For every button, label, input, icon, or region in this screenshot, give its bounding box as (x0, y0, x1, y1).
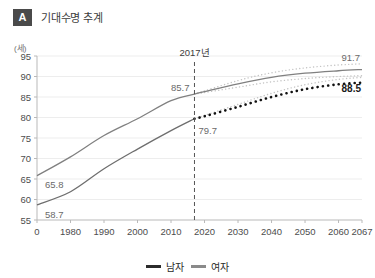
annotation-male-2067: 88.5 (342, 83, 362, 94)
section-badge: A (13, 9, 32, 26)
legend-label-male: 남자 (166, 259, 184, 274)
x-tick-label: 2000 (127, 226, 148, 237)
x-axis-ticks: 0198019902000201020202030204020502060206… (34, 220, 372, 237)
y-tick-label: 55 (20, 215, 31, 226)
y-tick-label: 65 (20, 174, 31, 185)
confidence-band-line (194, 64, 362, 94)
chart-area: 556065707580859095 019801990200020102020… (0, 34, 375, 256)
chart-header: A 기대수명 추계 (0, 0, 375, 34)
annotation-projection-year: 2017년 (179, 47, 209, 58)
legend-swatch-female-icon (191, 265, 206, 268)
annotation-female-2017: 85.7 (171, 82, 190, 93)
x-tick-label: 2067 (351, 226, 372, 237)
y-tick-label: 85 (20, 92, 31, 103)
x-tick-label: 2020 (194, 226, 215, 237)
x-tick-label: 1980 (60, 226, 81, 237)
x-tick-label: 2010 (160, 226, 181, 237)
annotation-male-start: 58.7 (45, 209, 64, 220)
annotation-female-2067: 91.7 (342, 52, 361, 63)
y-tick-label: 80 (20, 112, 31, 123)
series-line-male-historical (37, 119, 194, 205)
series-line-female (37, 70, 362, 176)
x-tick-label: 1990 (93, 226, 114, 237)
page-title: 기대수명 추계 (41, 9, 103, 25)
y-tick-label: 70 (20, 153, 31, 164)
y-tick-label: 95 (20, 51, 31, 62)
x-tick-label: 2050 (294, 226, 315, 237)
legend-swatch-male-icon (146, 265, 161, 268)
confidence-bands (194, 64, 362, 119)
x-tick-label: 2030 (227, 226, 248, 237)
legend-label-female: 여자 (211, 259, 229, 274)
legend-item-male: 남자 (146, 259, 184, 274)
y-tick-label: 90 (20, 71, 31, 82)
annotation-male-2017: 79.7 (198, 125, 217, 136)
annotation-female-start: 65.8 (45, 179, 64, 190)
y-tick-label: 60 (20, 194, 31, 205)
x-tick-label: 0 (34, 226, 39, 237)
chart-legend: 남자 여자 (0, 254, 375, 278)
y-axis-ticks: 556065707580859095 (20, 51, 37, 226)
x-tick-label: 2040 (261, 226, 282, 237)
legend-item-female: 여자 (191, 259, 229, 274)
life-expectancy-line-chart: 556065707580859095 019801990200020102020… (0, 34, 375, 256)
x-tick-label: 2060 (328, 226, 349, 237)
y-tick-label: 75 (20, 133, 31, 144)
